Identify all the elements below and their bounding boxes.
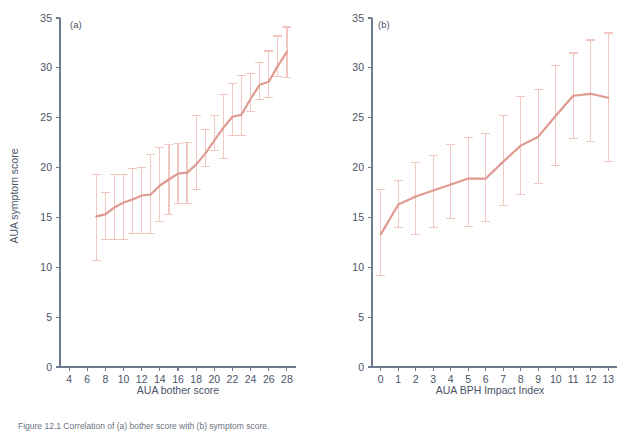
chart-panel-b: 05101520253035 012345678910111213 (b) AU… bbox=[330, 0, 640, 400]
x-tick-label: 13 bbox=[602, 373, 614, 385]
chart-b-errorbars bbox=[376, 33, 613, 275]
chart-panel-a: 05101520253035 46810121416182022242628 (… bbox=[0, 0, 330, 400]
y-tick-label: 10 bbox=[40, 261, 52, 273]
panel-b-tag: (b) bbox=[378, 19, 390, 30]
x-tick-label: 12 bbox=[585, 373, 597, 385]
x-tick-label: 10 bbox=[550, 373, 562, 385]
chart-a-x-axis-title: AUA bother score bbox=[137, 384, 219, 396]
chart-b-data-line bbox=[381, 94, 609, 235]
y-tick-label: 30 bbox=[40, 61, 52, 73]
chart-b-y-tick-labels: 05101520253035 bbox=[352, 12, 364, 373]
axis-lines bbox=[372, 18, 617, 367]
x-tick-label: 26 bbox=[263, 373, 275, 385]
chart-a-svg: 05101520253035 46810121416182022242628 (… bbox=[0, 0, 330, 400]
y-tick-label: 20 bbox=[40, 161, 52, 173]
x-tick-label: 24 bbox=[245, 373, 257, 385]
chart-b-x-axis-title: AUA BPH Impact Index bbox=[436, 384, 545, 396]
y-tick-label: 15 bbox=[352, 211, 364, 223]
figure-container: 05101520253035 46810121416182022242628 (… bbox=[0, 0, 640, 433]
y-tick-label: 35 bbox=[40, 12, 52, 24]
x-tick-label: 1 bbox=[395, 373, 401, 385]
chart-a-y-tick-labels: 05101520253035 bbox=[40, 12, 52, 373]
x-tick-label: 8 bbox=[102, 373, 108, 385]
x-tick-label: 11 bbox=[568, 373, 579, 385]
y-tick-label: 5 bbox=[46, 311, 52, 323]
panel-a-tag: (a) bbox=[70, 19, 82, 30]
chart-b-svg: 05101520253035 012345678910111213 (b) AU… bbox=[330, 0, 640, 400]
x-tick-label: 2 bbox=[413, 373, 419, 385]
x-tick-label: 4 bbox=[66, 373, 72, 385]
y-tick-label: 15 bbox=[40, 211, 52, 223]
y-tick-label: 10 bbox=[352, 261, 364, 273]
figure-caption: Figure 12.1 Correlation of (a) bother sc… bbox=[18, 421, 628, 431]
y-tick-label: 25 bbox=[40, 111, 52, 123]
chart-a-data-line bbox=[96, 52, 287, 217]
y-tick-label: 5 bbox=[358, 311, 364, 323]
x-tick-label: 28 bbox=[281, 373, 293, 385]
x-tick-label: 6 bbox=[84, 373, 90, 385]
y-tick-label: 20 bbox=[352, 161, 364, 173]
chart-a-y-axis-title: AUA symptom score bbox=[8, 148, 20, 243]
x-tick-label: 0 bbox=[378, 373, 384, 385]
x-tick-label: 10 bbox=[118, 373, 130, 385]
y-tick-label: 30 bbox=[352, 61, 364, 73]
y-tick-label: 35 bbox=[352, 12, 364, 24]
chart-a-errorbars bbox=[92, 27, 292, 260]
chart-b-axes bbox=[368, 18, 617, 371]
y-tick-label: 25 bbox=[352, 111, 364, 123]
y-tick-label: 0 bbox=[46, 361, 52, 373]
y-tick-label: 0 bbox=[358, 361, 364, 373]
x-tick-label: 22 bbox=[227, 373, 239, 385]
